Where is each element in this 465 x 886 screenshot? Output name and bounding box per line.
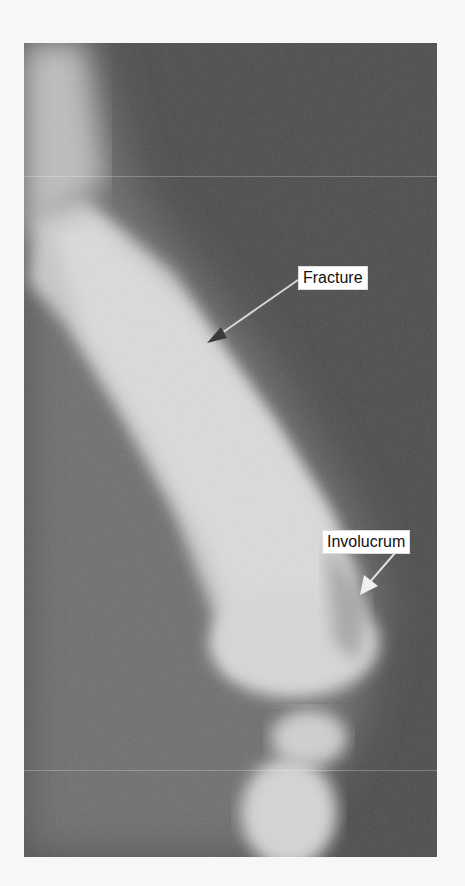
xray-anatomy [24, 43, 437, 857]
xray-image: Fracture Involucrum [24, 43, 437, 857]
scan-artifact-line [24, 770, 437, 771]
involucrum-label: Involucrum [322, 530, 410, 554]
scan-artifact-line [24, 176, 437, 177]
fracture-label: Fracture [298, 266, 368, 290]
